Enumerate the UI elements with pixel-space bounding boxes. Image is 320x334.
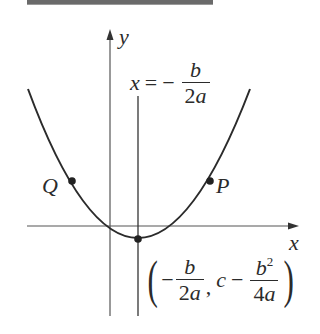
vertex-open-paren: (	[147, 254, 157, 306]
x-axis-arrow-icon	[288, 223, 299, 230]
vertex-x-numerator: b	[181, 256, 198, 279]
eq-denominator: 2a	[182, 82, 210, 107]
eq-equals: =	[145, 72, 157, 94]
vertex-comma: ,	[206, 276, 212, 298]
vertex-coordinates: ( − b 2a , c − b2 4a )	[144, 254, 298, 306]
vertex-minus-1: −	[161, 269, 173, 291]
vertex-y-denominator: 4a	[250, 280, 278, 305]
vertex-x-denominator-text: 2a	[179, 280, 201, 305]
vertex-x-denominator: 2a	[176, 279, 204, 304]
axis-of-symmetry-equation: x = − b 2a	[130, 59, 212, 107]
vertex-c: c	[216, 269, 226, 291]
eq-minus: −	[162, 72, 174, 94]
vertex-close-paren: )	[284, 254, 294, 306]
vertex-minus-2: −	[231, 269, 243, 291]
point-p-label: P	[216, 175, 229, 197]
eq-fraction: b 2a	[182, 59, 210, 107]
parabola-curve	[28, 89, 250, 238]
vertex-dot	[134, 235, 142, 243]
point-p-dot	[206, 177, 214, 185]
vertex-y-numerator: b2	[253, 255, 277, 280]
point-q-label: Q	[42, 175, 58, 197]
eq-numerator: b	[187, 59, 204, 82]
eq-denominator-text: 2a	[185, 83, 207, 108]
vertex-y-numerator-exponent: 2	[267, 254, 274, 269]
vertex-y-denominator-text: 4a	[253, 281, 275, 306]
vertex-y-numerator-base: b	[256, 255, 267, 280]
point-q-dot	[68, 177, 76, 185]
vertex-y-fraction: b2 4a	[250, 255, 278, 305]
y-axis-arrow-icon	[107, 29, 114, 40]
vertex-x-fraction: b 2a	[176, 256, 204, 304]
y-axis-label: y	[119, 26, 129, 48]
eq-lhs: x	[130, 72, 140, 94]
